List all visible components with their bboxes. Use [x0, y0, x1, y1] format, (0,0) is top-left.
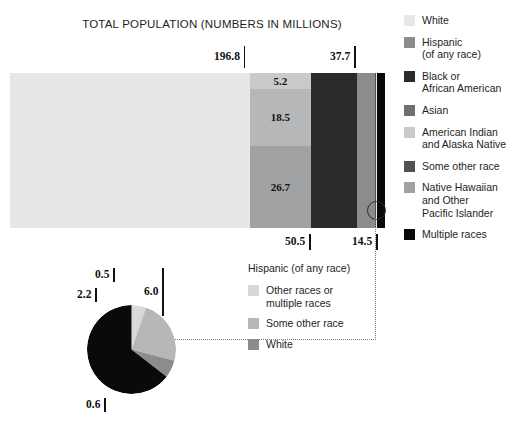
tick-rule: [113, 268, 115, 282]
pie-tick-value: 2.2: [77, 289, 91, 301]
legend-item[interactable]: Some other race: [404, 160, 516, 173]
legend-swatch-some-other-race: [404, 161, 415, 172]
legend-swatch-asian: [404, 105, 415, 116]
pie-tick-value: 0.6: [86, 399, 100, 411]
bar-segment-black-or-african-american: [311, 73, 357, 228]
legend-item[interactable]: White: [404, 14, 516, 27]
legend-item[interactable]: Native Hawaiianand OtherPacific Islander: [404, 181, 516, 219]
tick-rule: [244, 46, 246, 68]
legend-swatch-black-african-american: [404, 71, 415, 82]
bar-subsegment: 5.2: [250, 73, 312, 89]
tick-rule: [376, 234, 378, 250]
bar-tick-top-value: 196.8: [214, 51, 240, 63]
pie-legend-label: Some other race: [266, 317, 344, 330]
main-legend: WhiteHispanic(of any race)Black orAfrica…: [404, 14, 516, 250]
pie-tick: 0.6: [86, 398, 106, 412]
bar-tick-top: 37.7: [330, 46, 356, 68]
bar-tick-bottom-value: 50.5: [285, 236, 305, 248]
pie-legend-label: Other races ormultiple races: [266, 284, 333, 309]
pie-legend-swatch-white: [248, 339, 259, 350]
legend-label: Hispanic(of any race): [422, 36, 481, 61]
legend-label: Some other race: [422, 160, 500, 173]
pie-legend-items: Other races ormultiple racesSome other r…: [248, 284, 398, 350]
page-title: TOTAL POPULATION (NUMBERS IN MILLIONS): [62, 18, 362, 30]
bar-tick-top: 196.8: [214, 46, 245, 68]
pie-tick: 6.0: [144, 268, 164, 316]
bar-subsegment-value: 5.2: [274, 75, 288, 87]
stacked-bar-chart: 5.218.526.7: [10, 73, 385, 228]
pie-legend-item[interactable]: White: [248, 338, 398, 351]
bar-tick-bottom: 14.5: [352, 234, 378, 250]
pie-svg: [87, 305, 176, 394]
legend-label: White: [422, 14, 449, 27]
bar-segment-white: [10, 73, 250, 228]
bar-segment-hispanic: 5.218.526.7: [250, 73, 312, 228]
legend-label: Multiple races: [422, 228, 487, 241]
legend-label: American Indianand Alaska Native: [422, 126, 506, 151]
legend-swatch-multiple-races: [404, 229, 415, 240]
pie-tick: 2.2: [77, 288, 97, 302]
tick-rule: [354, 46, 356, 68]
legend-swatch-hispanic: [404, 37, 415, 48]
hispanic-callout-marker: [367, 201, 386, 220]
tick-rule: [309, 234, 311, 250]
pie-legend-item[interactable]: Other races ormultiple races: [248, 284, 398, 309]
bar-tick-bottom-value: 14.5: [352, 236, 372, 248]
pie-legend-swatch-some-other-race: [248, 318, 259, 329]
bar-subsegment-value: 18.5: [271, 111, 290, 123]
infographic-root: TOTAL POPULATION (NUMBERS IN MILLIONS) 5…: [0, 0, 520, 427]
pie-legend: Hispanic (of any race) Other races ormul…: [248, 262, 398, 358]
tick-rule: [95, 288, 97, 302]
legend-label: Asian: [422, 104, 448, 117]
pie-tick-value: 0.5: [95, 269, 109, 281]
legend-swatch-white: [404, 15, 415, 26]
hispanic-pie-chart: [87, 305, 176, 394]
bar-subsegment: 26.7: [250, 146, 312, 228]
legend-swatch-american-indian: [404, 127, 415, 138]
tick-rule: [104, 398, 106, 412]
legend-item[interactable]: Asian: [404, 104, 516, 117]
legend-label: Native Hawaiianand OtherPacific Islander: [422, 181, 498, 219]
bar-tick-bottom: 50.5: [285, 234, 311, 250]
legend-item[interactable]: American Indianand Alaska Native: [404, 126, 516, 151]
pie-legend-item[interactable]: Some other race: [248, 317, 398, 330]
legend-label: Black orAfrican American: [422, 70, 501, 95]
bar-tick-top-value: 37.7: [330, 51, 350, 63]
legend-item[interactable]: Hispanic(of any race): [404, 36, 516, 61]
legend-item[interactable]: Black orAfrican American: [404, 70, 516, 95]
pie-tick-value: 6.0: [144, 286, 158, 298]
bar-subsegment: 18.5: [250, 89, 312, 146]
legend-item[interactable]: Multiple races: [404, 228, 516, 241]
pie-legend-swatch-other-or-multiple: [248, 285, 259, 296]
tick-rule: [162, 268, 164, 316]
pie-legend-title: Hispanic (of any race): [248, 262, 398, 274]
legend-swatch-native-hawaiian: [404, 182, 415, 193]
bar-subsegment-value: 26.7: [271, 181, 290, 193]
pie-tick: 0.5: [95, 268, 115, 282]
pie-legend-label: White: [266, 338, 293, 351]
